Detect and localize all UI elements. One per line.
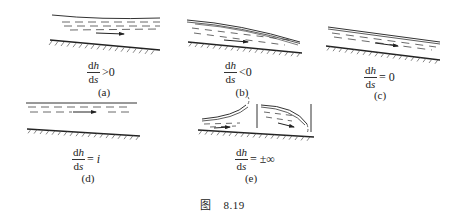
- panel-c-label: (c): [365, 89, 395, 101]
- panel-d-sketch: [26, 103, 140, 140]
- panel-d-formula: dhds = i: [72, 147, 100, 172]
- caption-number: 8.19: [224, 199, 245, 211]
- panel-a-label: (a): [89, 86, 119, 98]
- caption-prefix: 图: [200, 199, 212, 212]
- panel-e-formula: dhds = ±∞: [235, 147, 275, 172]
- panel-b-sketch: [187, 20, 302, 57]
- panel-a-formula: dhds >0: [87, 60, 115, 85]
- flow-profiles-diagram: [0, 0, 464, 218]
- panel-d-label: (d): [73, 172, 103, 184]
- panel-e-label: (e): [236, 172, 266, 184]
- panel-a-sketch: [49, 15, 160, 54]
- panel-b-formula: dhds <0: [224, 60, 252, 85]
- panel-b-label: (b): [227, 86, 257, 98]
- panel-c-sketch: [326, 27, 440, 64]
- panel-c-formula: dhds = 0: [364, 65, 395, 90]
- panel-e-sketch: [198, 97, 314, 141]
- figure-caption: 图8.19: [200, 196, 245, 212]
